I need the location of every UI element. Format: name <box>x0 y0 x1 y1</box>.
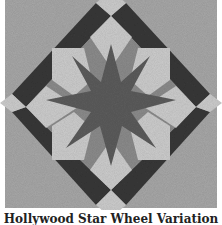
quilt-block <box>0 0 222 210</box>
figure-caption: Hollywood Star Wheel Variation <box>0 212 222 225</box>
